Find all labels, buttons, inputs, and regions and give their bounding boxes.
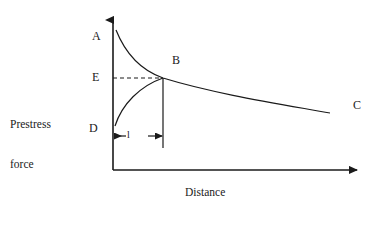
point-label-d: D xyxy=(89,122,98,136)
point-label-e: E xyxy=(92,71,99,85)
curve-ascending-d-b xyxy=(115,78,163,126)
point-label-a: A xyxy=(92,30,101,44)
dimension-label-length: l xyxy=(127,129,130,141)
point-label-c: C xyxy=(353,99,361,113)
y-axis-label-line-2: force xyxy=(10,158,90,171)
x-axis-label: Distance xyxy=(185,186,225,199)
curve-descending-a-b-c xyxy=(116,30,330,113)
y-axis-label: Prestress force xyxy=(10,92,90,185)
y-axis-label-line-1: Prestress xyxy=(10,118,90,131)
point-label-b: B xyxy=(172,54,180,68)
